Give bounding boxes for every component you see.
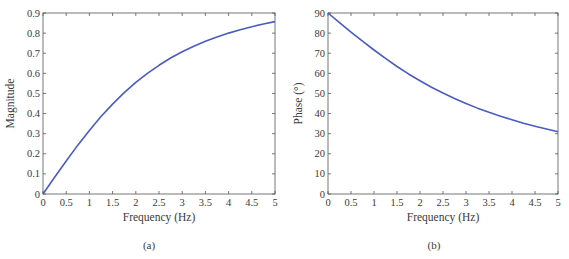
x-tick-label: 3.5 xyxy=(199,197,212,208)
y-tick-label: 90 xyxy=(315,8,326,19)
x-tick-label: 1.5 xyxy=(390,197,403,208)
y-tick-label: 0.4 xyxy=(27,108,41,119)
y-tick-label: 30 xyxy=(315,128,326,139)
y-tick-label: 0.7 xyxy=(27,48,40,59)
y-tick-label: 0.9 xyxy=(27,8,40,19)
x-tick-label: 3 xyxy=(180,197,185,208)
x-tick-label: 5 xyxy=(555,197,560,208)
y-tick-label: 20 xyxy=(315,148,326,159)
y-tick-label: 0.2 xyxy=(27,148,40,159)
data-curve xyxy=(43,22,275,194)
x-tick-label: 4.5 xyxy=(528,197,541,208)
x-tick-label: 4 xyxy=(226,197,232,208)
x-tick-label: 2 xyxy=(133,197,138,208)
y-tick-label: 0.6 xyxy=(27,68,40,79)
phase-chart-panel: 00.511.522.533.544.550102030405060708090… xyxy=(285,0,569,259)
magnitude-chart-panel: 00.511.522.533.544.5500.10.20.30.40.50.6… xyxy=(0,0,285,259)
y-tick-label: 0 xyxy=(35,189,40,200)
y-tick-label: 60 xyxy=(315,68,326,79)
x-axis-label: Frequency (Hz) xyxy=(407,211,480,224)
y-tick-label: 10 xyxy=(315,168,326,179)
x-axis-label: Frequency (Hz) xyxy=(123,211,196,224)
x-tick-label: 2.5 xyxy=(436,197,449,208)
data-curve xyxy=(328,13,558,132)
x-tick-label: 3 xyxy=(463,197,468,208)
plot-frame xyxy=(43,13,275,194)
x-tick-label: 4 xyxy=(509,197,515,208)
x-tick-label: 1 xyxy=(371,197,376,208)
y-tick-label: 0 xyxy=(320,189,325,200)
y-tick-label: 40 xyxy=(315,108,326,119)
x-tick-label: 4.5 xyxy=(245,197,258,208)
y-axis-label: Phase (°) xyxy=(292,82,305,124)
x-tick-label: 1.5 xyxy=(106,197,119,208)
y-tick-label: 0.3 xyxy=(27,128,40,139)
y-axis-label: Magnitude xyxy=(4,79,17,129)
x-tick-label: 3.5 xyxy=(482,197,495,208)
y-tick-label: 0.8 xyxy=(27,28,40,39)
x-tick-label: 0.5 xyxy=(60,197,73,208)
x-tick-label: 0.5 xyxy=(344,197,357,208)
phase-chart: 00.511.522.533.544.550102030405060708090… xyxy=(285,0,569,259)
x-tick-label: 2 xyxy=(417,197,422,208)
magnitude-chart: 00.511.522.533.544.5500.10.20.30.40.50.6… xyxy=(0,0,285,259)
x-tick-label: 0 xyxy=(325,197,330,208)
y-tick-label: 80 xyxy=(315,28,326,39)
x-tick-label: 5 xyxy=(272,197,277,208)
x-tick-label: 1 xyxy=(87,197,92,208)
panel-caption: (a) xyxy=(143,239,156,252)
x-tick-label: 0 xyxy=(40,197,45,208)
panel-caption: (b) xyxy=(428,239,441,252)
y-tick-label: 70 xyxy=(315,48,326,59)
y-tick-label: 0.5 xyxy=(27,88,40,99)
y-tick-label: 0.1 xyxy=(27,168,40,179)
x-tick-label: 2.5 xyxy=(152,197,165,208)
y-tick-label: 50 xyxy=(315,88,326,99)
